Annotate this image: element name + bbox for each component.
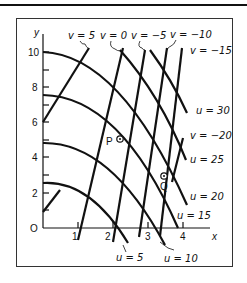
label-u15: u = 15 [177, 210, 211, 221]
u-curve-10 [43, 143, 165, 245]
label-v0: v = 0 [100, 30, 127, 41]
point-p-label: P [106, 136, 113, 147]
y-tick-6: 6 [32, 117, 38, 128]
x-tick-4: 4 [180, 231, 186, 242]
y-tick-4: 4 [32, 152, 38, 163]
origin-label: O [30, 223, 38, 234]
x-tick-1: 1 [72, 231, 78, 242]
x-axis-label: x [211, 231, 218, 242]
label-vm10: v = −10 [170, 29, 212, 40]
label-u20: u = 20 [190, 191, 224, 202]
y-tick-8: 8 [32, 82, 38, 93]
v-labels: v = 5 v = 0 v = −5 v = −10 v = −15 v = −… [68, 29, 232, 141]
label-u25: u = 25 [190, 154, 224, 165]
v-line-m20 [172, 138, 183, 182]
label-u10: u = 10 [164, 253, 198, 264]
y-tick-2: 2 [32, 188, 38, 199]
label-vm20: v = −20 [190, 130, 232, 141]
y-axis-label: y [33, 27, 40, 38]
uv-coordinate-grid-diagram: y 10 8 6 4 2 O 1 2 3 4 x v = 5 v = 0 v =… [0, 0, 247, 283]
label-v5: v = 5 [68, 30, 95, 41]
label-u5: u = 5 [116, 252, 143, 263]
label-vm5: v = −5 [131, 30, 166, 41]
label-u30: u = 30 [196, 105, 230, 116]
v-line-5 [43, 48, 89, 122]
v-line-m5 [113, 50, 145, 242]
y-tick-10: 10 [28, 47, 40, 58]
point-p: P [106, 136, 123, 147]
x-tick-2: 2 [105, 231, 111, 242]
label-vm15: v = −15 [190, 45, 232, 56]
point-q: Q [160, 173, 168, 192]
x-tick-3: 3 [145, 231, 151, 242]
point-q-label: Q [160, 181, 168, 192]
